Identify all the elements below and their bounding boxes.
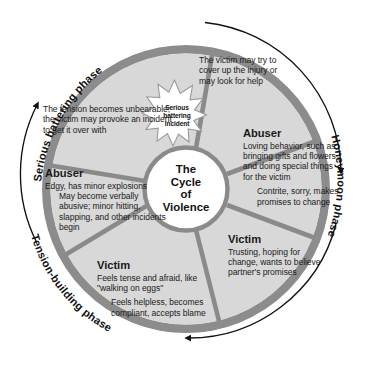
segment-heading: Abuser	[243, 127, 345, 140]
segment-text-secondary: Feels helpless, becomes compliant, accep…	[97, 297, 223, 318]
segment-heading: Victim	[97, 259, 223, 272]
center-line-2: Cycle	[171, 176, 201, 188]
segment-honeymoon-abuser: Abuser Loving behavior, such as bringing…	[243, 127, 345, 207]
segment-text-primary: Trusting, hoping for change, wants to be…	[228, 247, 324, 278]
center-line-1: The	[176, 163, 196, 175]
segment-tension-victim: Victim Feels tense and afraid, like "wal…	[97, 259, 223, 318]
segment-text-secondary: May become verbally abusive; minor hitti…	[45, 191, 167, 233]
segment-text-primary: The victim may try to cover up the injur…	[199, 55, 295, 86]
segment-tension-climax: The tension becomes unbearable; the vict…	[43, 104, 173, 135]
segment-text-primary: Edgy, has minor explosions	[45, 181, 167, 191]
segment-text-primary: The tension becomes unbearable; the vict…	[43, 104, 173, 135]
segment-text-primary: Feels tense and afraid, like "walking on…	[97, 273, 223, 294]
center-line-3: of	[181, 188, 192, 200]
cycle-of-violence-diagram: Serious battering phase Honeymoon phase …	[0, 0, 370, 375]
segment-heading: Victim	[228, 233, 324, 246]
text-layer: Serious battering incident The Cycle of …	[0, 0, 370, 375]
segment-text-primary: Loving behavior, such as bringing gifts …	[243, 141, 345, 183]
segment-battering-victim: The victim may try to cover up the injur…	[199, 55, 295, 86]
segment-text-secondary: Contrite, sorry, makes promises to chang…	[243, 186, 345, 207]
center-line-4: Violence	[163, 201, 210, 213]
segment-heading: Abuser	[45, 167, 167, 180]
segment-honeymoon-victim: Victim Trusting, hoping for change, want…	[228, 233, 324, 278]
segment-tension-abuser: Abuser Edgy, has minor explosions May be…	[45, 167, 167, 233]
